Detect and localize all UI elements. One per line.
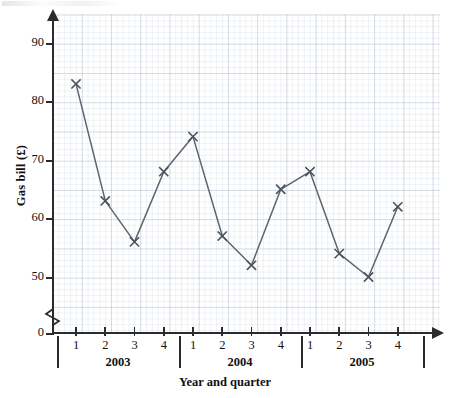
x-tick-label-2003-q3: 3 (125, 338, 145, 353)
x-axis-year-label-2005: 2005 (322, 355, 402, 370)
group-separator-start (57, 336, 59, 368)
x-axis-line (53, 332, 434, 334)
chart-figure: 90 80 70 60 50 0 Gas bill (£) 1234123412… (0, 0, 450, 398)
x-tick-label-2005-q1: 1 (300, 338, 320, 353)
group-separator-end (423, 336, 425, 368)
y-axis-break-icon (44, 302, 62, 330)
y-tick-80 (46, 101, 54, 103)
x-axis-title: Year and quarter (0, 375, 450, 390)
y-tick-label-50: 50 (4, 269, 44, 284)
x-axis-year-label-2004: 2004 (200, 355, 280, 370)
x-tick-2005-q2 (338, 327, 340, 336)
x-tick-2003-q4 (163, 327, 165, 336)
x-tick-2005-q3 (368, 327, 370, 336)
y-tick-label-90: 90 (4, 35, 44, 50)
x-tick-label-2004-q2: 2 (212, 338, 232, 353)
x-tick-2004-q3 (251, 327, 253, 336)
y-tick-0 (46, 333, 54, 335)
x-tick-label-2005-q2: 2 (329, 338, 349, 353)
x-tick-2003-q2 (104, 327, 106, 336)
x-tick-2005-q1 (309, 327, 311, 336)
x-tick-2004-q1 (192, 327, 194, 336)
y-axis-arrow-icon (47, 9, 59, 21)
y-tick-50 (46, 277, 54, 279)
y-axis-title: Gas bill (£) (14, 111, 29, 241)
x-tick-2003-q3 (134, 327, 136, 336)
y-axis-line (52, 20, 54, 334)
x-tick-label-2003-q4: 4 (154, 338, 174, 353)
x-tick-label-2004-q3: 3 (242, 338, 262, 353)
x-axis-arrow-icon (432, 327, 444, 339)
x-tick-label-2004-q1: 1 (183, 338, 203, 353)
y-tick-label-80: 80 (4, 93, 44, 108)
x-tick-2003-q1 (75, 327, 77, 336)
group-separator-2004-2005 (301, 336, 303, 368)
x-tick-2004-q2 (221, 327, 223, 336)
x-tick-2005-q4 (397, 327, 399, 336)
x-tick-label-2003-q1: 1 (66, 338, 86, 353)
plot-gridlines (53, 14, 440, 333)
group-separator-2003-2004 (179, 336, 181, 368)
x-tick-label-2003-q2: 2 (95, 338, 115, 353)
x-tick-label-2005-q4: 4 (388, 338, 408, 353)
x-tick-2004-q4 (280, 327, 282, 336)
y-tick-90 (46, 43, 54, 45)
x-axis-year-label-2003: 2003 (78, 355, 158, 370)
y-tick-label-0: 0 (4, 325, 44, 340)
x-tick-label-2004-q4: 4 (271, 338, 291, 353)
y-tick-60 (46, 218, 54, 220)
y-tick-70 (46, 160, 54, 162)
x-tick-label-2005-q3: 3 (359, 338, 379, 353)
